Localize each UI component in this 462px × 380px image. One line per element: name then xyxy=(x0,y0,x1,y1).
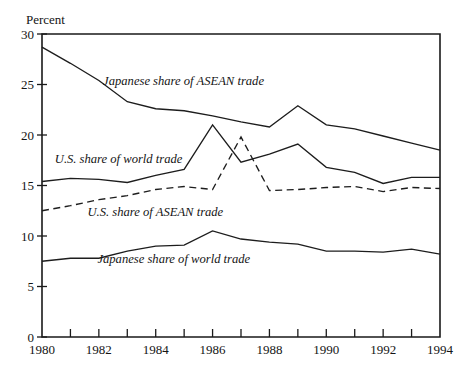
y-axis-tick-labels: 051015202530 xyxy=(21,27,34,345)
series-label-3: Japanese share of world trade xyxy=(97,252,250,266)
x-tick-label-1994: 1994 xyxy=(427,342,454,357)
x-axis-ticks xyxy=(70,329,411,337)
series-label-1: U.S. share of world trade xyxy=(55,152,183,166)
x-tick-label-1992: 1992 xyxy=(370,342,396,357)
y-tick-label-25: 25 xyxy=(21,77,34,92)
x-tick-label-1982: 1982 xyxy=(86,342,112,357)
x-tick-label-1986: 1986 xyxy=(200,342,227,357)
series-label-2: U.S. share of ASEAN trade xyxy=(87,205,223,219)
x-tick-label-1988: 1988 xyxy=(256,342,282,357)
y-axis-title: Percent xyxy=(26,12,65,27)
x-tick-label-1984: 1984 xyxy=(143,342,170,357)
y-tick-label-10: 10 xyxy=(21,229,34,244)
x-tick-label-1990: 1990 xyxy=(313,342,339,357)
series-line-2 xyxy=(42,137,440,211)
x-tick-label-1980: 1980 xyxy=(29,342,55,357)
y-tick-label-15: 15 xyxy=(21,178,34,193)
series-line-0 xyxy=(42,47,440,150)
chart-figure: 051015202530 198019821984198619881990199… xyxy=(0,0,462,380)
y-tick-label-5: 5 xyxy=(28,279,35,294)
y-tick-label-30: 30 xyxy=(21,27,34,42)
series-label-0: Japanese share of ASEAN trade xyxy=(103,74,264,88)
y-tick-label-20: 20 xyxy=(21,128,34,143)
line-chart-canvas: 051015202530 198019821984198619881990199… xyxy=(0,0,462,380)
x-axis-tick-labels: 19801982198419861988199019921994 xyxy=(29,342,454,357)
